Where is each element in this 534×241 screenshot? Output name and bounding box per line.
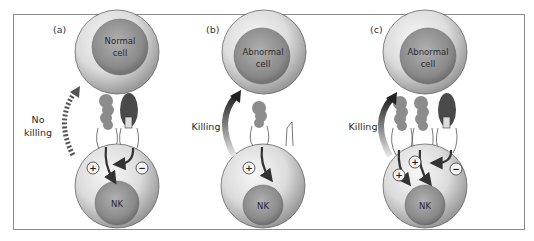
- plus-signal-icon: +: [245, 163, 253, 173]
- activating-ligand-icon: [99, 94, 114, 130]
- nk-cell-diagram: (a) Normal cell NK: [0, 0, 534, 241]
- outcome-label: Killing: [192, 121, 221, 132]
- panel-label-c: (c): [370, 24, 383, 35]
- nk-cell: NK: [75, 144, 159, 228]
- nk-label: NK: [111, 199, 123, 209]
- minus-signal-icon: −: [138, 163, 146, 173]
- activating-receptor-icon: [250, 126, 269, 146]
- svg-text:killing: killing: [24, 127, 52, 138]
- inhibitory-ligand-icon: [120, 93, 138, 128]
- target-cell-label: Normal: [105, 36, 136, 46]
- killing-arrow-icon: [225, 96, 236, 156]
- target-cell-label: Abnormal: [243, 47, 284, 57]
- nk-cell: NK: [383, 144, 467, 228]
- svg-text:cell: cell: [421, 59, 436, 69]
- plus-signal-icon: +: [411, 157, 419, 167]
- killing-arrow-icon: [381, 98, 392, 156]
- panel-label-a: (a): [53, 24, 66, 35]
- plus-signal-icon: +: [395, 170, 403, 180]
- outcome-label: Killing: [349, 121, 378, 132]
- target-cell-label: Abnormal: [408, 47, 449, 57]
- minus-signal-icon: −: [452, 164, 460, 174]
- inhibitory-ligand-icon: [438, 93, 456, 128]
- plus-signal-icon: +: [89, 163, 97, 173]
- panel-b: (b) Abnormal cell NK + Killing: [192, 10, 306, 228]
- abnormal-cell: Abnormal cell: [222, 10, 306, 94]
- svg-text:cell: cell: [113, 48, 128, 58]
- panel-a: (a) Normal cell NK: [24, 10, 159, 228]
- dotted-no-killing-arrow-icon: [64, 92, 75, 155]
- abnormal-cell: Abnormal cell: [383, 10, 467, 94]
- panel-label-b: (b): [206, 24, 219, 35]
- nk-cell: NK: [221, 144, 305, 228]
- activating-ligand-icon: [414, 96, 429, 131]
- panel-c: (c) Abnormal cell NK: [349, 10, 467, 228]
- activating-ligand-icon: [252, 101, 267, 128]
- inhibitory-receptor-icon: [286, 122, 293, 146]
- outcome-label: No: [32, 114, 45, 125]
- svg-text:cell: cell: [256, 59, 271, 69]
- nk-label: NK: [419, 201, 431, 211]
- nk-label: NK: [257, 201, 269, 211]
- normal-cell: Normal cell: [75, 10, 159, 94]
